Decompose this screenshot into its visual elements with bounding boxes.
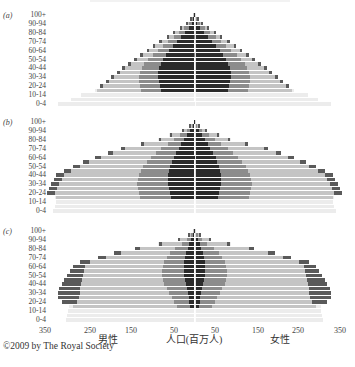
pyramid-bar-left [58,102,195,106]
pyramid-bar-right [195,98,319,102]
pyramid-cap-left [159,242,162,246]
age-label: 100+ [31,227,46,235]
pyramid-cap-left [95,156,101,160]
panel-a: (a) 100+ 90-94 80-84 70-74 60-64 50-54 4… [0,0,355,110]
pyramid-bar-left [170,165,194,169]
pyramid-cap-left [64,278,82,282]
pyramid-cap-right [234,44,237,48]
center-divider [195,116,196,213]
pyramid-bar-left [185,31,194,35]
pyramid-bar-right [195,209,337,213]
pyramid-cap-left [186,22,188,26]
pyramid-bar-right [195,251,203,255]
pyramid-bar-left [184,260,194,264]
pyramid-bar-right [195,71,231,75]
pyramid-bar-right [195,305,317,309]
pyramid-cap-left [98,256,106,260]
pyramid-bar-right [195,49,220,53]
x-axis-title: 人口(百万人) [166,331,223,346]
age-label: 0-4 [36,100,46,108]
pyramid-cap-left [111,75,114,79]
pyramid-bar-left [67,314,195,318]
center-divider [195,225,196,322]
pyramid-bar-left [173,44,195,48]
pyramid-cap-right [227,242,230,246]
panel-label: (a) [3,11,12,20]
pyramid-cap-left [64,169,72,173]
pyramid-cap-right [197,17,199,21]
pyramid-bar-left [184,269,195,273]
pyramid-bar-right [195,309,322,313]
pyramid-cap-right [205,129,207,133]
pyramid-cap-left [153,44,156,48]
pyramid-bar-right [195,93,308,97]
age-label: 30-34 [29,73,47,81]
pyramid-bar-left [184,138,195,142]
pyramid-cap-right [332,187,340,191]
pyramid-cap-left [141,142,144,146]
age-label: 0-4 [36,316,46,324]
pyramid-cap-left [159,138,162,142]
pyramid-bar-right [195,287,203,291]
age-label: 10-14 [29,307,47,315]
pyramid-cap-left [182,129,184,133]
pyramid-cap-left [128,62,131,66]
pyramid-bar-left [161,62,195,66]
age-label: 90-94 [29,236,47,244]
pyramid-bar-right [195,291,202,295]
pyramid-cap-right [201,22,203,26]
pyramid-cap-left [134,58,137,62]
age-label: 20-24 [29,298,47,306]
pyramid-cap-right [308,282,327,286]
pyramid-bar-right [195,35,208,39]
pyramid-cap-right [217,133,219,137]
pyramid-cap-left [80,260,89,264]
pyramid-cap-right [264,66,267,70]
pyramid-cap-right [228,138,231,142]
pyramid-cap-left [135,247,140,251]
pyramid-cap-right [330,182,338,186]
pyramid-cap-right [310,296,331,300]
pyramid-cap-right [269,71,272,75]
pyramid-cap-left [62,282,81,286]
pyramid-bar-left [159,80,194,84]
pyramid-bar-right [195,75,231,79]
pyramid-bar-left [158,71,194,75]
x-tick: 250 [84,326,96,335]
age-label: 20-24 [29,189,47,197]
pyramid-bar-right [195,260,205,264]
age-label: 10-14 [29,91,47,99]
pyramid-cap-left [83,160,89,164]
pyramid-bar-left [66,318,195,322]
panel-b: (b) 100+ 90-94 80-84 70-74 60-64 50-54 4… [0,110,355,220]
age-label: 0-4 [36,207,46,215]
pyramid-bar-left [170,191,194,195]
age-label: 20-24 [29,82,47,90]
pyramid-cap-right [227,40,230,44]
pyramid-bar-right [195,44,217,48]
pyramid-cap-right [258,62,261,66]
pyramid-cap-right [240,49,243,53]
pyramid-bar-right [195,62,229,66]
pyramid-cap-left [70,269,84,273]
pyramid-cap-right [288,156,294,160]
pyramid-bar-left [169,187,194,191]
pyramid-cap-right [199,233,201,237]
pyramid-cap-right [312,300,327,304]
pyramid-cap-left [108,151,113,155]
age-label: 80-84 [29,29,47,37]
pyramid-bar-right [195,178,221,182]
pyramid-cap-left [140,53,143,57]
age-label: 70-74 [29,145,47,153]
pyramid-cap-left [67,274,83,278]
pyramid-cap-left [189,124,191,128]
pyramid-cap-left [56,173,64,177]
pyramid-bar-right [195,187,220,191]
x-tick: 250 [292,326,304,335]
age-label: 60-64 [29,47,47,55]
age-label: 90-94 [29,20,47,28]
panel-c: (c) 100+ 90-94 80-84 70-74 60-64 50-54 4… [0,220,355,320]
pyramid-cap-right [246,53,249,57]
age-label: 60-64 [29,263,47,271]
pyramid-bar-right [195,142,208,146]
